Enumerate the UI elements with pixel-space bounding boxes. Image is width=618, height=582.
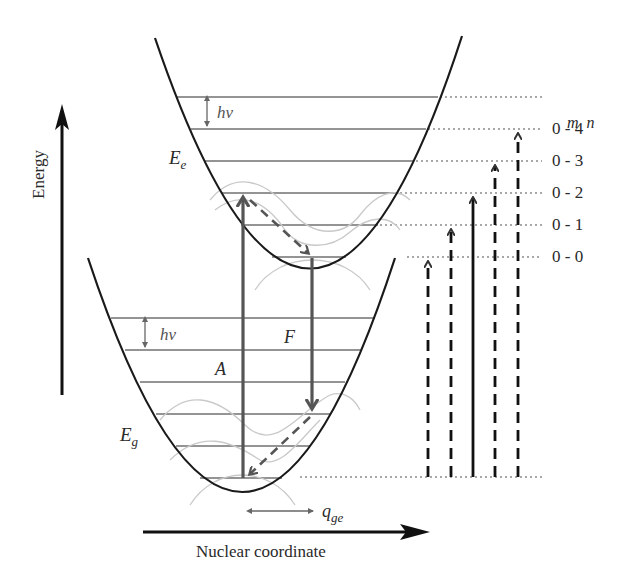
franck-condon-diagram: Energy Nuclear coordinate Ee Eg hν hν A … [0, 0, 618, 582]
ground-state-label: Eg [120, 425, 138, 444]
vibronic-label-0-4: 0 - 4 [552, 120, 583, 137]
absorption-label: A [215, 360, 226, 378]
relaxation-arrows [250, 200, 310, 474]
excited-state-curve [155, 36, 462, 269]
fluorescence-label: F [284, 328, 295, 346]
nuclear-coordinate-label: Nuclear coordinate [196, 543, 326, 560]
hv-markers [145, 100, 207, 347]
displacement-label: qge [322, 502, 343, 520]
vibronic-label-0-0: 0 - 0 [552, 248, 583, 265]
vibronic-label-0-1: 0 - 1 [552, 216, 583, 233]
diagram-graphics [0, 0, 618, 582]
dotted-extensions [300, 97, 545, 477]
excited-state-label: Ee [169, 148, 186, 167]
energy-axis [55, 104, 69, 395]
vibronic-label-0-2: 0 - 2 [552, 184, 583, 201]
excited-state-levels [176, 97, 438, 257]
potential-curves [88, 36, 462, 492]
energy-axis-label: Energy [30, 150, 47, 199]
nuclear-coordinate-axis [143, 524, 430, 540]
ground-hv-label: hν [160, 326, 176, 343]
vibronic-label-0-3: 0 - 3 [552, 152, 583, 169]
vibronic-transitions [428, 134, 518, 477]
excited-hv-label: hν [217, 104, 233, 121]
